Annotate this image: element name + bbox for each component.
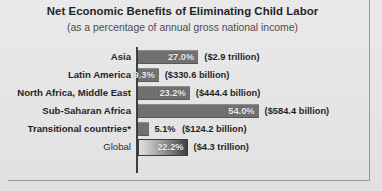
bar-category-label: Global	[103, 138, 131, 156]
bar-amount-label: ($584.4 billion)	[265, 104, 330, 118]
bar-amount-label: ($2.9 trillion)	[204, 50, 259, 64]
chart-subtitle: (as a percentage of annual gross nationa…	[0, 22, 365, 33]
bar-category-label: Asia	[111, 48, 131, 66]
bar-value-label: 23.2%	[159, 86, 185, 100]
figure-border-bottom	[8, 180, 370, 181]
bar-category-label: Latin America	[68, 66, 131, 84]
bar	[138, 122, 149, 136]
bar-row: Transitional countries*5.1%($124.2 billi…	[0, 120, 382, 138]
bar-row: Asia27.0%($2.9 trillion)	[0, 48, 382, 66]
chart-plot-area: Asia27.0%($2.9 trillion)Latin America9.3…	[0, 46, 382, 176]
bar-value-label: 22.2%	[157, 139, 183, 156]
bar-category-label: North Africa, Middle East	[17, 84, 131, 102]
bar-category-label: Sub-Saharan Africa	[42, 102, 131, 120]
bar-amount-label: ($124.2 billion)	[182, 122, 247, 136]
bar-fill	[138, 122, 149, 136]
bar-amount-label: ($4.3 trillion)	[194, 139, 249, 156]
chart-figure: Net Economic Benefits of Eliminating Chi…	[0, 0, 382, 191]
bar-amount-label: ($444.4 billion)	[196, 86, 261, 100]
bar-row: Global22.2%($4.3 trillion)	[0, 138, 382, 156]
bar-row: North Africa, Middle East23.2%($444.4 bi…	[0, 84, 382, 102]
bar-value-label: 54.0%	[228, 104, 254, 118]
bar-value-label: 9.3%	[134, 68, 155, 82]
bar-row: Latin America9.3%($330.6 billion)	[0, 66, 382, 84]
bar-value-label: 27.0%	[168, 50, 194, 64]
bar-category-label: Transitional countries*	[28, 120, 131, 138]
bar-value-label: 5.1%	[154, 122, 175, 136]
bar-row: Sub-Saharan Africa54.0%($584.4 billion)	[0, 102, 382, 120]
bar-amount-label: ($330.6 billion)	[165, 68, 230, 82]
chart-title: Net Economic Benefits of Eliminating Chi…	[0, 5, 365, 17]
